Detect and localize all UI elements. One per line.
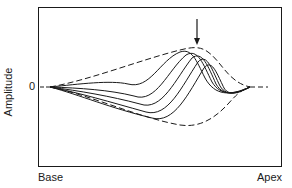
upper-envelope [50, 48, 250, 87]
apex-label: Apex [257, 171, 282, 183]
waveform-2 [50, 53, 250, 97]
down-arrow-icon [194, 38, 200, 45]
waveforms [50, 51, 250, 119]
plot-frame [39, 8, 282, 167]
lower-envelope [50, 87, 250, 126]
y-axis-label: Amplitude [2, 86, 16, 100]
zero-label: 0 [29, 80, 35, 92]
traveling-wave-figure: Amplitude 0 Base Apex [0, 0, 292, 188]
base-label: Base [38, 171, 63, 183]
wave-plot [0, 0, 292, 188]
